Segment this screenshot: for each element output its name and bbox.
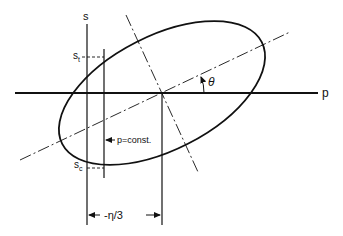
theta-angle-arc [201, 77, 204, 93]
ellipse-diagram: p s st sc θ p=const. -η/3 [0, 0, 343, 236]
theta-label: θ [208, 75, 215, 89]
p-axis-label: p [322, 86, 329, 100]
dimension-label: -η/3 [104, 209, 123, 221]
s-axis-label: s [83, 10, 89, 22]
p-const-label: p=const. [117, 135, 151, 145]
s-t-label: st [73, 50, 80, 63]
